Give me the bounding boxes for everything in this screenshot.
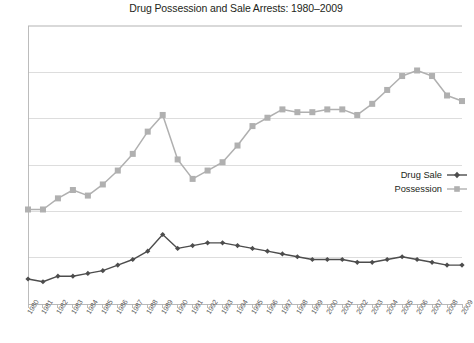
legend-swatch-possession bbox=[446, 184, 468, 194]
chart-legend: Drug Sale Possession bbox=[356, 168, 468, 196]
gridlines bbox=[28, 26, 462, 304]
legend-swatch-drug-sale bbox=[446, 170, 468, 180]
legend-label-possession: Possession bbox=[394, 184, 442, 194]
legend-label-drug-sale: Drug Sale bbox=[401, 170, 442, 180]
legend-item-possession[interactable]: Possession bbox=[356, 182, 468, 196]
x-axis bbox=[28, 26, 462, 308]
legend-item-drug-sale[interactable]: Drug Sale bbox=[356, 168, 468, 182]
